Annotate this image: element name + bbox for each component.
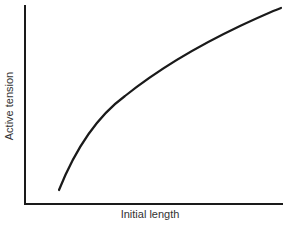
y-axis-label: Active tension [3, 72, 15, 140]
chart-plot-area [0, 0, 285, 227]
tension-curve [59, 8, 281, 190]
x-axis-label: Initial length [0, 208, 285, 220]
